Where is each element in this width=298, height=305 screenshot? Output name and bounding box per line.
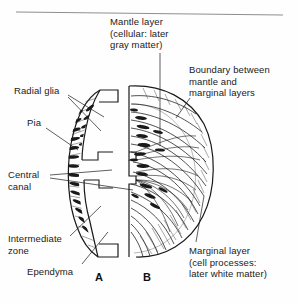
panel-label-a: A	[95, 271, 103, 283]
panel-a-radial-glia	[67, 94, 115, 253]
label-marginal-layer-line3: later white matter)	[189, 268, 267, 279]
label-intermediate-zone: Intermediate zone	[8, 233, 62, 256]
label-radial-glia-line1: Radial glia	[14, 85, 59, 96]
label-central-canal-line1: Central	[8, 169, 39, 180]
label-mantle-layer-line1: Mantle layer	[110, 16, 163, 27]
label-marginal-layer-line2: (cell processes:	[189, 257, 257, 268]
label-boundary: Boundary between mantle and marginal lay…	[189, 64, 270, 99]
label-mantle-layer-line3: gray matter)	[110, 39, 162, 50]
label-central-canal-line2: canal	[8, 181, 31, 192]
leader-radial-glia-1	[68, 95, 104, 117]
top-divider-rule	[16, 12, 283, 15]
label-boundary-line1: Boundary between	[189, 64, 270, 75]
panel-label-b: B	[143, 271, 151, 283]
leader-ependyma	[82, 232, 108, 264]
label-mantle-layer: Mantle layer (cellular: later gray matte…	[110, 16, 169, 51]
label-pia-line1: Pia	[27, 117, 41, 128]
label-boundary-line3: marginal layers	[189, 87, 255, 98]
label-ependyma: Ependyma	[27, 266, 73, 278]
label-pia: Pia	[27, 117, 41, 129]
panel-b-figure	[129, 86, 213, 257]
label-intermediate-zone-line2: zone	[8, 245, 29, 256]
label-radial-glia: Radial glia	[14, 85, 59, 97]
label-intermediate-zone-line1: Intermediate	[8, 233, 62, 244]
label-boundary-line2: mantle and	[189, 76, 237, 87]
label-mantle-layer-line2: (cellular: later	[110, 28, 169, 39]
leader-central-canal-1	[50, 170, 112, 175]
figure-page: Mantle layer (cellular: later gray matte…	[0, 0, 298, 305]
label-marginal-layer: Marginal layer (cell processes: later wh…	[189, 245, 267, 280]
label-marginal-layer-line1: Marginal layer	[189, 245, 250, 256]
label-ependyma-line1: Ependyma	[27, 266, 73, 277]
label-central-canal: Central canal	[8, 169, 39, 192]
